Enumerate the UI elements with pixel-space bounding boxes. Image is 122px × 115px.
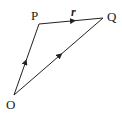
label-vector-r: r	[71, 5, 76, 19]
label-q: Q	[107, 9, 117, 24]
diagram-canvas: P Q O r	[0, 0, 122, 115]
label-p: P	[31, 8, 38, 23]
vector-diagram: P Q O r	[0, 0, 122, 115]
label-o: O	[6, 97, 15, 112]
